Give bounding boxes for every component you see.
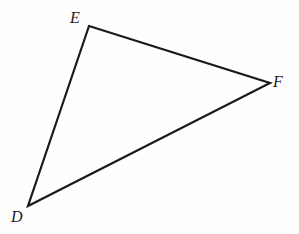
vertex-label-e: E [70, 10, 80, 26]
vertex-label-f: F [273, 74, 283, 90]
geometry-figure: E F D [0, 0, 299, 234]
vertex-label-d: D [11, 209, 23, 225]
triangle-shape [0, 0, 299, 234]
triangle-outline [28, 26, 270, 206]
